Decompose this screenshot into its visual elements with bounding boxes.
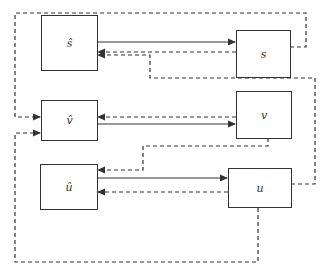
edge-v-to-uhat (98, 138, 268, 170)
node-u: u (228, 168, 292, 208)
node-label: v̂ (66, 114, 72, 127)
node-v: v (236, 91, 292, 139)
node-label: ŝ (67, 37, 73, 50)
node-s: s (236, 30, 291, 78)
node-label: v (261, 109, 267, 122)
node-label: û (65, 181, 72, 194)
node-label: u (256, 182, 263, 195)
node-u-hat: û (40, 164, 98, 210)
node-label: s (261, 48, 267, 61)
node-v-hat: v̂ (41, 100, 98, 141)
node-s-hat: ŝ (41, 15, 98, 71)
